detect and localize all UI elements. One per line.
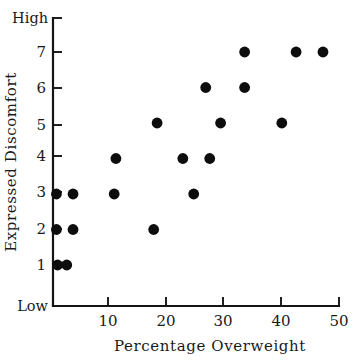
x-tick-marks (108, 297, 281, 306)
x-tick-label-40: 40 (271, 312, 290, 330)
y-tick-label-4: 4 (36, 147, 46, 165)
y-tick-label-6: 6 (36, 79, 46, 97)
data-point (51, 224, 62, 235)
y-axis-title: Expressed Discomfort (2, 72, 20, 252)
x-tick-label-30: 30 (213, 312, 232, 330)
y-tick-label-7: 7 (36, 43, 46, 61)
data-point (200, 82, 211, 93)
x-tick-label-10: 10 (98, 312, 117, 330)
y-tick-label-3: 3 (36, 183, 46, 201)
y-tick-labels: 7 6 5 4 3 2 1 (36, 43, 46, 274)
data-point (61, 260, 72, 271)
data-point (204, 153, 215, 164)
y-tick-label-1: 1 (36, 256, 46, 274)
data-points-group (51, 47, 328, 271)
data-point (68, 224, 79, 235)
data-point (177, 153, 188, 164)
data-point (215, 118, 226, 129)
data-point (111, 153, 122, 164)
data-point (68, 189, 79, 200)
data-point (239, 82, 250, 93)
axes-group (53, 18, 339, 306)
scatter-plot-figure: 7 6 5 4 3 2 1 High Low 10 20 30 40 50 Pe… (0, 0, 357, 363)
data-point (148, 224, 159, 235)
y-tick-label-5: 5 (36, 116, 46, 134)
y-axis-high-label: High (12, 10, 48, 26)
data-point (276, 118, 287, 129)
y-tick-label-2: 2 (36, 220, 46, 238)
data-point (239, 47, 250, 58)
data-point (109, 189, 120, 200)
plot-canvas: 7 6 5 4 3 2 1 High Low 10 20 30 40 50 Pe… (0, 0, 357, 363)
data-point (318, 47, 329, 58)
data-point (152, 118, 163, 129)
data-point (51, 189, 62, 200)
x-tick-label-20: 20 (156, 312, 175, 330)
data-point (291, 47, 302, 58)
x-tick-labels: 10 20 30 40 50 (98, 312, 348, 330)
data-point (188, 189, 199, 200)
y-axis-low-label: Low (17, 298, 48, 314)
x-axis-title: Percentage Overweight (114, 337, 306, 355)
x-tick-label-50: 50 (329, 312, 348, 330)
